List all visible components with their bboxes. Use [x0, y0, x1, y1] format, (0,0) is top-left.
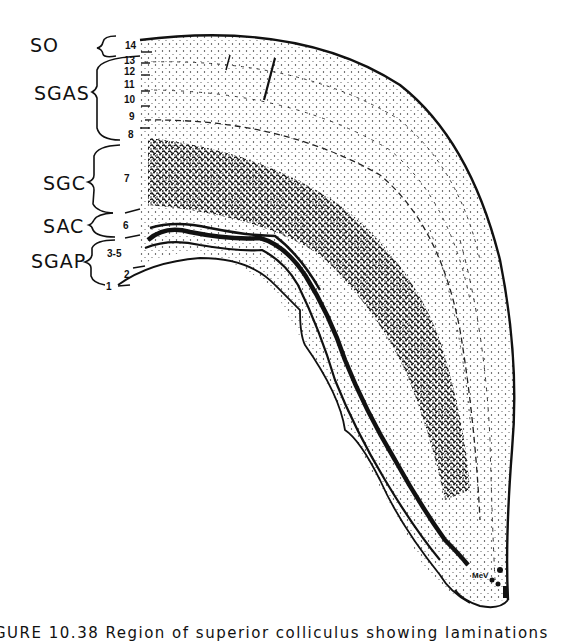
label-sgas: SGAS [34, 82, 90, 104]
label-so: SO [30, 34, 59, 56]
sublayer-10: 10 [124, 94, 135, 105]
label-sgc: SGC [43, 172, 86, 194]
mev-label: MeV [472, 571, 488, 580]
sublayer-7: 7 [124, 173, 130, 184]
sublayer-14: 14 [125, 40, 136, 51]
sublayer-2: 2 [124, 269, 130, 280]
sublayer-6: 6 [123, 220, 129, 231]
sublayer-3-5: 3-5 [107, 248, 121, 259]
sublayer-13: 13 [124, 55, 135, 66]
label-sac: SAC [43, 215, 84, 237]
figure-caption: GURE 10.38 Region of superior colliculus… [0, 624, 549, 642]
sublayer-11: 11 [124, 79, 135, 90]
sublayer-1: 1 [106, 281, 112, 292]
label-sgap: SGAP [31, 250, 86, 272]
sublayer-9: 9 [129, 111, 135, 122]
sublayer-8: 8 [128, 129, 134, 140]
sublayer-12: 12 [124, 66, 135, 77]
